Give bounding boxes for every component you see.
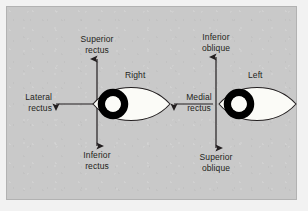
label-lateral-rectus-line1: Lateral <box>8 92 52 103</box>
right-eye-group <box>56 59 170 146</box>
label-inferior-oblique-line2: oblique <box>181 43 251 54</box>
label-inferior-oblique: Inferior oblique <box>181 32 251 53</box>
label-medial-rectus-line2: rectus <box>177 103 221 114</box>
label-lateral-rectus-line2: rectus <box>8 103 52 114</box>
label-inferior-rectus: Inferior rectus <box>62 150 132 171</box>
label-superior-oblique-line2: oblique <box>181 163 251 174</box>
label-medial-rectus: Medial rectus <box>177 92 221 113</box>
label-right-eye: Right <box>125 70 145 80</box>
label-superior-oblique: Superior oblique <box>181 152 251 173</box>
label-left-eye: Left <box>248 70 263 80</box>
label-superior-oblique-line1: Superior <box>181 152 251 163</box>
right-eye-pupil-highlight <box>105 96 121 112</box>
label-inferior-oblique-line1: Inferior <box>181 32 251 43</box>
label-inferior-rectus-line1: Inferior <box>62 150 132 161</box>
label-superior-rectus-line1: Superior <box>62 34 132 45</box>
label-inferior-rectus-line2: rectus <box>62 161 132 172</box>
label-medial-rectus-line1: Medial <box>177 92 221 103</box>
label-superior-rectus-line2: rectus <box>62 45 132 56</box>
label-lateral-rectus: Lateral rectus <box>8 92 52 113</box>
left-eye-pupil-highlight <box>231 96 247 112</box>
eye-muscle-diagram-figure: Superior rectus Inferior rectus Lateral … <box>0 0 308 211</box>
label-superior-rectus: Superior rectus <box>62 34 132 55</box>
